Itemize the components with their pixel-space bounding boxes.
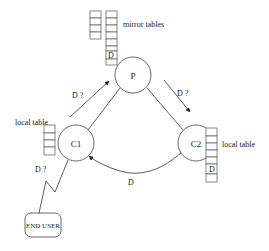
edge-p-c1 bbox=[88, 88, 120, 130]
arrow-c2-to-c1 bbox=[89, 153, 181, 173]
mirror-table-right: D bbox=[106, 11, 117, 65]
mirror-tables-label: mirror tables bbox=[123, 20, 164, 29]
edge-label-user-to-c1: D ? bbox=[35, 165, 47, 174]
local-table-c2: D bbox=[206, 128, 217, 182]
node-end-user: END USER bbox=[25, 213, 61, 237]
node-p: P bbox=[115, 57, 151, 93]
node-p-label: P bbox=[130, 71, 135, 81]
mirror-table-left bbox=[90, 11, 101, 39]
local-table-c2-label: local table bbox=[222, 140, 256, 149]
node-c2-label: C2 bbox=[191, 139, 202, 149]
edge-label-c1-to-p: D ? bbox=[72, 91, 84, 100]
mirror-table-entry: D bbox=[108, 51, 114, 60]
edge-label-p-to-c2: D ? bbox=[177, 89, 189, 98]
node-end-user-label: END USER bbox=[26, 222, 60, 230]
edge-label-c2-to-c1: D bbox=[128, 178, 134, 187]
local-table-c1 bbox=[44, 125, 55, 155]
node-c1-label: C1 bbox=[71, 139, 82, 149]
replication-diagram: D mirror tables D ? D ? D P C1 C2 local … bbox=[0, 0, 269, 251]
node-c1: C1 bbox=[58, 125, 94, 161]
local-table-c2-entry: D bbox=[209, 165, 215, 174]
local-table-c1-label: local table bbox=[15, 118, 49, 127]
